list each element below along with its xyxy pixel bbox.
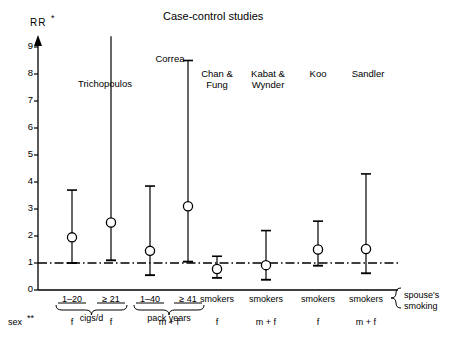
rr-marker [183,202,192,211]
y-tick-label-3: 3 [20,202,33,213]
rr-marker [313,245,322,254]
sex-row-header: sex [8,317,22,327]
chart-canvas [0,0,455,341]
data-point-1 [67,190,77,263]
study-label-6: Sandler [323,68,413,79]
y-tick-label-2: 2 [20,229,33,240]
study-label-4-line2: Wynder [223,79,313,90]
spouse-smoking-annotation-line2: smoking [404,301,438,312]
y-axis-label-superscript: * [51,13,55,23]
y-tick-label-9: 9 [20,40,33,51]
y-tick-label-6: 6 [20,121,33,132]
data-point-6 [261,231,271,280]
chart-figure: Case-control studies RR * 0123456789 Tri… [0,0,455,341]
data-point-3 [145,186,155,275]
exposure-label-8: smokers [326,294,406,304]
data-point-7 [313,221,323,266]
y-tick-label-7: 7 [20,94,33,105]
data-point-5 [212,256,222,278]
spouse-smoking-annotation-line1: spouse's [404,290,439,301]
data-point-8 [361,174,371,273]
study-label-1: Trichopoulos [60,78,150,89]
y-tick-label-5: 5 [20,148,33,159]
study-label-2: Correa [125,53,215,64]
rr-marker [106,218,115,227]
sex-row-header-superscript: ** [27,313,34,323]
y-tick-label-8: 8 [20,67,33,78]
data-point-2 [106,36,116,260]
rr-marker [145,246,154,255]
y-axis-label: RR [30,17,46,28]
rr-marker [361,244,370,253]
rr-marker [261,261,270,270]
y-axis-arrow-icon [34,35,42,46]
y-tick-label-4: 4 [20,175,33,186]
sex-value-5: m + f [236,317,296,327]
y-tick-label-0: 0 [20,283,33,294]
y-tick-label-1: 1 [20,256,33,267]
data-point-4 [183,61,193,262]
sex-value-7: m + f [336,317,396,327]
chart-title: Case-control studies [163,10,263,22]
sex-value-2: f [81,317,141,327]
rr-marker [67,233,76,242]
rr-marker [212,264,221,273]
